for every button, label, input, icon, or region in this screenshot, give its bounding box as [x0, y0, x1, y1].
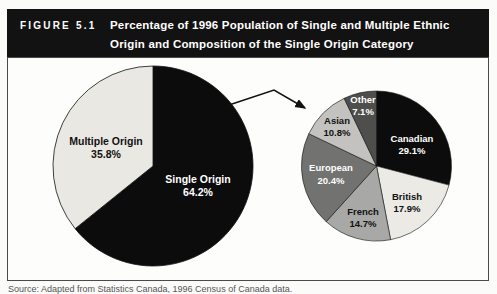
value-asian: 10.8%	[324, 127, 351, 138]
value-other: 7.1%	[352, 106, 374, 117]
value-multiple-origin: 35.8%	[91, 148, 121, 160]
connector-arrow	[229, 90, 305, 108]
pie-single-origin-composition: Other 7.1% Asian 10.8% Canadian 29.1% Eu…	[301, 91, 451, 241]
label-european: European	[309, 162, 353, 173]
label-other: Other	[350, 94, 376, 105]
pie-origin-split: Multiple Origin 35.8% Single Origin 64.2…	[53, 66, 253, 266]
chart-panel: Multiple Origin 35.8% Single Origin 64.2…	[7, 57, 489, 281]
value-single-origin: 64.2%	[183, 186, 213, 198]
label-canadian: Canadian	[391, 133, 434, 144]
label-multiple-origin: Multiple Origin	[69, 135, 143, 147]
figure-title-line1: Percentage of 1996 Population of Single …	[110, 16, 450, 35]
figure-number-label: FIGURE 5.1	[7, 16, 110, 35]
label-french: French	[347, 206, 379, 217]
value-canadian: 29.1%	[399, 145, 426, 156]
source-caption: Source: Adapted from Statistics Canada, …	[8, 284, 490, 294]
label-single-origin: Single Origin	[165, 173, 230, 185]
pie-charts-canvas: Multiple Origin 35.8% Single Origin 64.2…	[8, 58, 488, 280]
figure-header: FIGURE 5.1 Percentage of 1996 Population…	[7, 9, 489, 57]
figure-title-line2: Origin and Composition of the Single Ori…	[110, 35, 450, 54]
figure-title: Percentage of 1996 Population of Single …	[110, 16, 450, 54]
label-british: British	[392, 191, 422, 202]
value-french: 14.7%	[350, 218, 377, 229]
label-asian: Asian	[324, 115, 350, 126]
value-european: 20.4%	[318, 175, 345, 186]
value-british: 17.9%	[394, 203, 421, 214]
